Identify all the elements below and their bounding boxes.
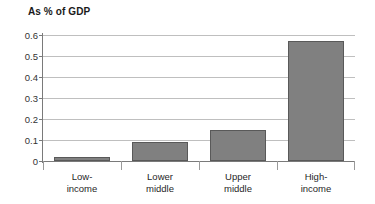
- bar: [132, 142, 188, 161]
- y-axis-tick-label: 0.1: [4, 135, 38, 146]
- category-divider: [277, 161, 278, 170]
- x-axis-tick-label: Low-income: [43, 171, 121, 204]
- y-axis-tick-label: 0.5: [4, 51, 38, 62]
- y-axis-tick-label: 0.3: [4, 93, 38, 104]
- y-axis-tick-label: 0.6: [4, 30, 38, 41]
- category-axis: [43, 161, 355, 171]
- category-divider: [354, 161, 355, 170]
- x-axis-tick-label: Uppermiddle: [199, 171, 277, 204]
- category-divider: [121, 161, 122, 170]
- y-axis-tick-label: 0: [4, 156, 38, 167]
- bar: [288, 41, 344, 161]
- x-axis-tick-label: High-income: [277, 171, 355, 204]
- x-axis-tick-label-line: High-: [277, 171, 355, 183]
- x-axis-tick-label-line: middle: [199, 183, 277, 195]
- plot-area: [43, 35, 355, 161]
- x-axis-labels: Low-incomeLowermiddleUppermiddleHigh-inc…: [43, 171, 355, 204]
- y-axis-labels: 0.60.50.40.30.20.10: [0, 0, 38, 204]
- x-axis-tick-label-line: income: [277, 183, 355, 195]
- gridline: [43, 35, 355, 36]
- category-divider: [43, 161, 44, 170]
- category-divider: [199, 161, 200, 170]
- x-axis-tick-label-line: income: [43, 183, 121, 195]
- x-axis-tick-label: Lowermiddle: [121, 171, 199, 204]
- y-axis-tick-label: 0.4: [4, 72, 38, 83]
- x-axis-tick-label-line: middle: [121, 183, 199, 195]
- x-axis-tick-label-line: Upper: [199, 171, 277, 183]
- bar: [210, 130, 266, 162]
- x-axis-tick-label-line: Low-: [43, 171, 121, 183]
- x-axis-tick-label-line: Lower: [121, 171, 199, 183]
- y-axis-tick-label: 0.2: [4, 114, 38, 125]
- bar-chart: As % of GDP 0.60.50.40.30.20.10 Low-inco…: [0, 0, 375, 204]
